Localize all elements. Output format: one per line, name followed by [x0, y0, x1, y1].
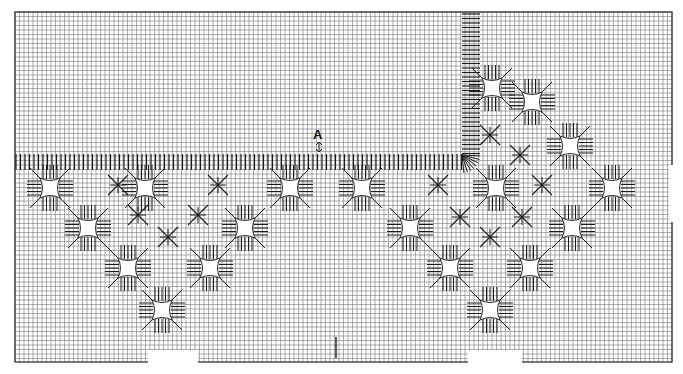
star-stitch-motif [480, 125, 500, 145]
star-stitch-motif [450, 207, 470, 227]
eyelet-motif [387, 205, 433, 251]
star-stitch-motif [512, 207, 532, 227]
grid-lines [15, 12, 683, 366]
star-stitch-motif [108, 175, 128, 195]
bottom-gap [468, 350, 522, 366]
star-stitch-motif [510, 145, 530, 165]
star-stitch-motif [128, 205, 148, 225]
eyelet-motif [549, 205, 595, 251]
star-stitch-motif [208, 175, 228, 195]
eyelet-motif [222, 205, 268, 251]
eyelet-motif [267, 165, 313, 211]
star-stitch-motif [428, 175, 448, 195]
eyelet-motif [589, 165, 635, 211]
eyelet-motif [473, 165, 519, 211]
eyelet-motif [469, 65, 515, 111]
eyelet-motif [467, 287, 513, 333]
eyelet-motif [507, 245, 553, 291]
bottom-gap [148, 350, 198, 366]
stitch-chart [0, 0, 683, 374]
eyelet-motif [105, 245, 151, 291]
marker-label-a: A [313, 127, 322, 142]
eyelet-motif [122, 165, 168, 211]
eyelet-motif [509, 79, 555, 125]
stitch-bands [16, 14, 480, 173]
right-gap [669, 165, 683, 222]
star-stitch-motif [480, 227, 500, 247]
star-stitch-motif [188, 205, 208, 225]
eyelet-motif [139, 287, 185, 333]
chart-markers [316, 142, 336, 358]
eyelet-motif [187, 245, 233, 291]
eyelet-motif [27, 165, 73, 211]
eyelet-motif [65, 205, 111, 251]
star-stitch-motif [532, 175, 552, 195]
eyelet-motif [547, 123, 593, 169]
eyelet-motif [427, 245, 473, 291]
eyelet-motif [339, 165, 385, 211]
star-stitch-motif [158, 227, 178, 247]
